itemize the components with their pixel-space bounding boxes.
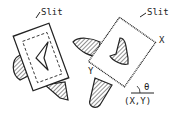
angle-theta-label: θ (144, 82, 149, 92)
right-hatched-shape-bottom (90, 78, 112, 107)
slit-label-right: Slit (147, 7, 169, 17)
origin-label: (X,Y) (124, 96, 151, 106)
right-slit-pointer (140, 13, 146, 17)
slit-label-left: Slit (41, 7, 63, 17)
y-axis-label: Y (88, 66, 94, 76)
angle-arc (137, 86, 140, 93)
right-object: Slit X Y θ (X,Y) (73, 7, 169, 107)
left-slit-pointer (36, 12, 40, 18)
slit-diagram: Slit Slit X Y θ (X,Y) (0, 0, 180, 116)
x-axis-label: X (159, 35, 165, 45)
left-object: Slit (13, 7, 69, 100)
